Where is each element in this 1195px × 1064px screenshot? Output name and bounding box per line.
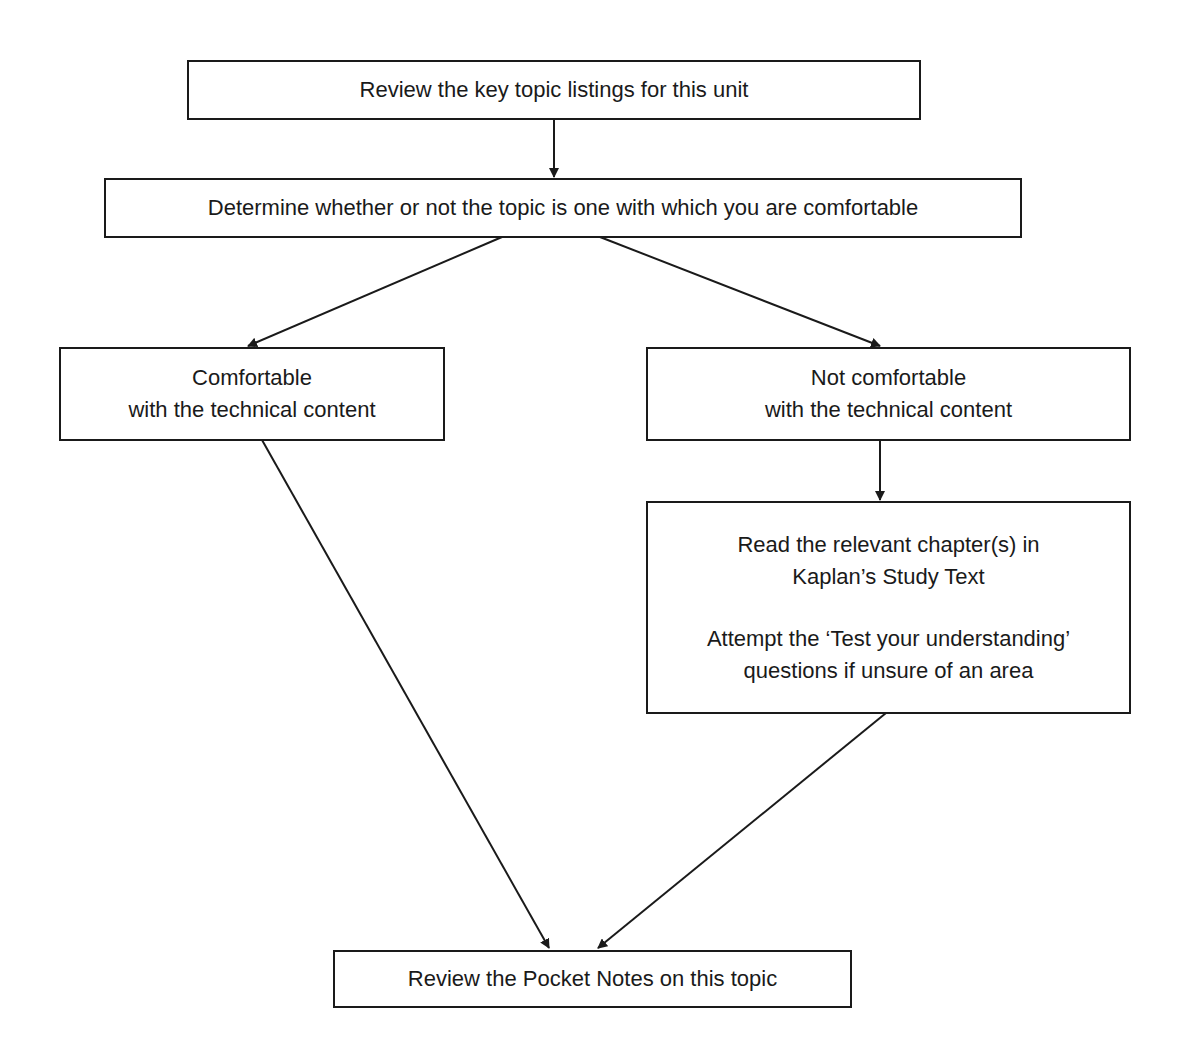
arrow-determine-to-not-comfortable (600, 237, 880, 346)
node-determine-comfort: Determine whether or not the topic is on… (104, 178, 1022, 238)
node-text-line-1: Comfortable (192, 362, 312, 394)
node-text-line-2: Kaplan’s Study Text (792, 561, 984, 593)
node-not-comfortable: Not comfortable with the technical conte… (646, 347, 1131, 441)
node-study-text: Read the relevant chapter(s) in Kaplan’s… (646, 501, 1131, 714)
node-text: Review the Pocket Notes on this topic (408, 963, 777, 995)
node-text-line-2: with the technical content (765, 394, 1012, 426)
arrow-determine-to-comfortable (248, 237, 502, 346)
node-comfortable: Comfortable with the technical content (59, 347, 445, 441)
node-pocket-notes: Review the Pocket Notes on this topic (333, 950, 852, 1008)
node-text-line-1: Not comfortable (811, 362, 966, 394)
node-text-line-4: questions if unsure of an area (744, 655, 1034, 687)
arrow-study-to-pocket-notes (598, 713, 886, 948)
node-text-line-3: Attempt the ‘Test your understanding’ (707, 623, 1070, 655)
arrow-comfortable-to-pocket-notes (262, 440, 549, 948)
node-text-line-1: Read the relevant chapter(s) in (737, 529, 1039, 561)
node-text-line-2: with the technical content (128, 394, 375, 426)
node-review-topics: Review the key topic listings for this u… (187, 60, 921, 120)
node-text: Determine whether or not the topic is on… (208, 192, 918, 224)
node-text: Review the key topic listings for this u… (360, 74, 749, 106)
